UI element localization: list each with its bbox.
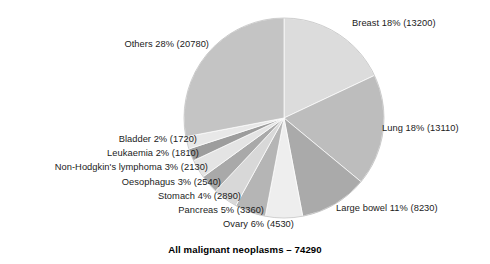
slice-label-non-hodgkins-lymphoma: Non-Hodgkin's lymphoma 3% (2130) [55, 162, 208, 173]
slice-label-lung: Lung 18% (13110) [382, 123, 459, 134]
slice-label-breast: Breast 18% (13200) [352, 18, 436, 29]
pie-chart-figure: Breast 18% (13200) Lung 18% (13110) Larg… [0, 0, 490, 264]
slice-label-ovary: Ovary 6% (4530) [223, 219, 294, 230]
slice-label-large-bowel: Large bowel 11% (8230) [336, 203, 438, 214]
slice-label-others: Others 28% (20780) [124, 39, 209, 50]
slice-label-bladder: Bladder 2% (1720) [119, 134, 197, 145]
slice-label-oesophagus: Oesophagus 3% (2540) [122, 177, 221, 188]
slice-label-stomach: Stomach 4% (2890) [158, 191, 241, 202]
slice-label-leukaemia: Leukaemia 2% (1810) [107, 148, 199, 159]
pie-slice-others [184, 18, 284, 137]
slice-label-pancreas: Pancreas 5% (3360) [178, 205, 264, 216]
chart-caption: All malignant neoplasms – 74290 [0, 244, 490, 255]
